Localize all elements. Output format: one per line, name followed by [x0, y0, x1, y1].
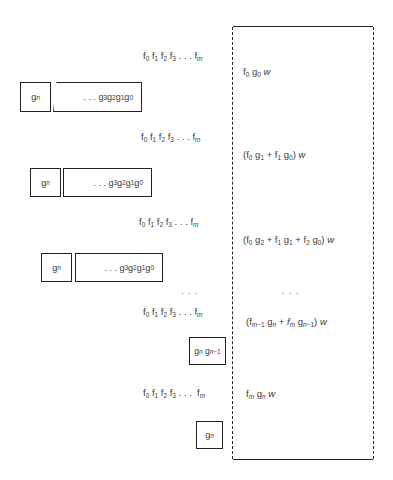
accumulator-right-edge — [373, 27, 374, 459]
accumulator-term-4: (fm−1 gn + fm gn−1) w — [246, 316, 327, 328]
g-register-tail-3: . . . g3 g2 g1 g0 — [75, 253, 163, 282]
f-sequence-1: f0 f1 f2 f3 . . . fm — [143, 50, 203, 62]
f-sequence-2: f0 f1 f2 f3 . . . fm — [141, 131, 201, 143]
ellipsis-right: . . . — [282, 286, 300, 296]
f-sequence-4: f0 f1 f2 f3 . . . fm — [143, 306, 203, 318]
f-sequence-5: f0 f1 f2 f3 . . . fm — [143, 387, 205, 399]
accumulator-term-5: fm gn w — [246, 388, 275, 400]
accumulator-term-3: (f0 g2 + f1 g1 + f2 g0) w — [243, 234, 334, 246]
g-register-head-1: gn — [20, 82, 51, 112]
ellipsis-left: . . . — [181, 286, 199, 296]
g-register-head-5: gn — [196, 421, 223, 449]
f-sequence-3: f0 f1 f2 f3 . . . fm — [139, 216, 199, 228]
g-register-head-4: gn gn−1 — [189, 337, 226, 365]
accumulator-term-2: (f0 g1 + f1 g0) w — [243, 149, 305, 161]
accumulator-left-edge — [232, 27, 233, 459]
g-register-head-2: gn — [30, 168, 61, 197]
g-register-tail-2: . . . g3 g2 g1 g0 — [63, 168, 152, 197]
accumulator-term-1: f0 g0 w — [243, 66, 270, 78]
g-register-head-3: gn — [41, 253, 72, 282]
g-register-tail-1: . . . g3 g2 g1 g0 — [53, 82, 142, 112]
